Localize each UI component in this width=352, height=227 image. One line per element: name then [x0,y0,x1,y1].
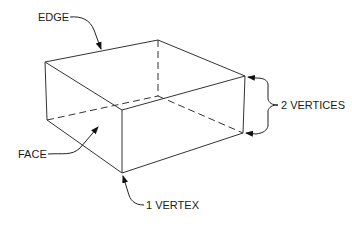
face-leader-arrow [48,127,98,154]
edge-label: EDGE [38,11,69,23]
edge-top-back [45,40,158,62]
vertices-two-upper-arrow [248,77,278,105]
visible-edges [45,40,245,173]
edge-vertical-left [45,62,47,120]
edge-top-right [158,40,245,76]
edge-vertical-right [243,76,245,133]
vertices-two-label: 2 VERTICES [281,99,345,111]
vertices-two-lower-arrow [246,105,278,134]
vertices-two-callout: 2 VERTICES [246,77,345,134]
vertex-one-callout: 1 VERTEX [123,176,200,211]
edge-top-front [122,76,245,110]
edge-callout: EDGE [38,11,101,49]
vertex-one-label: 1 VERTEX [146,199,200,211]
hidden-edges [47,40,243,133]
edge-bottom-left [47,120,122,173]
prism-diagram: EDGE FACE 1 VERTEX 2 VERTICES [0,0,352,227]
edge-top-left [45,62,122,110]
edge-leader-arrow [70,17,101,49]
face-callout: FACE [18,127,98,160]
edge-bottom-right [122,133,243,173]
face-label: FACE [18,148,47,160]
hidden-edge-bottom-back [47,96,158,120]
hidden-edge-bottom-right [158,96,243,133]
vertex-one-leader-arrow [123,176,144,205]
